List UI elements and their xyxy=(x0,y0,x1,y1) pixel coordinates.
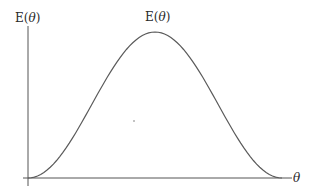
energy-curve xyxy=(28,32,282,178)
x-axis-label: θ xyxy=(293,171,301,185)
curve-label: E(θ) xyxy=(145,10,170,24)
center-dot xyxy=(133,120,135,122)
y-axis-label: E(θ) xyxy=(15,11,40,25)
energy-curve-chart: E(θ) E(θ) θ xyxy=(0,0,313,196)
